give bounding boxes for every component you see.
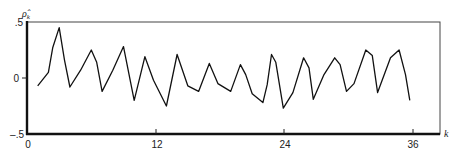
x-tick-label-36: 36 xyxy=(407,139,419,150)
x-tick-label-0: 0 xyxy=(25,139,31,150)
y-tick-label-mid: 0 xyxy=(13,73,19,84)
plot-frame xyxy=(27,22,440,134)
x-tick-label-12: 12 xyxy=(151,139,163,150)
x-axis-label: k xyxy=(444,128,449,139)
autocorrelation-chart: .5 0 –.5 0 12 24 36 ρ̂k k xyxy=(0,0,457,167)
y-tick-label-bottom: –.5 xyxy=(10,129,24,140)
autocorrelation-line xyxy=(38,28,410,109)
x-tick-label-24: 24 xyxy=(279,139,291,150)
